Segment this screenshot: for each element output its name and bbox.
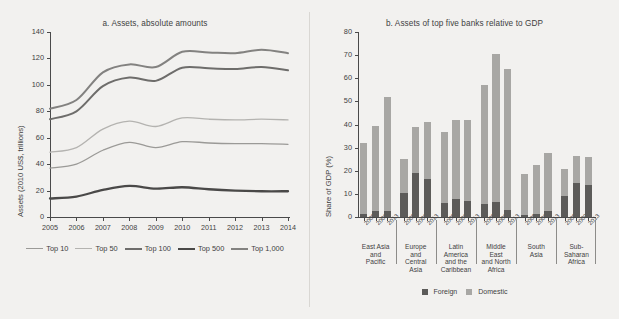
panel-b-group-label: LatinAmericaand theCaribbean [434,243,477,273]
bar-segment-domestic [504,69,511,211]
group-label-line: East Asia [354,243,397,251]
legend-item-top-50: Top 50 [75,244,117,253]
group-separator [556,220,557,264]
group-label-line: East [475,251,518,259]
panel-a-y-tick-label: 40 [20,159,44,168]
legend-label: Domestic [478,288,507,295]
bar-segment-foreign [585,185,592,217]
bar-segment-foreign [400,193,407,218]
panel-b-y-tick-label: 10 [330,189,352,198]
bar-segment-domestic [533,165,540,214]
panel-b-y-tick [355,217,358,218]
panel-b-group-label: MiddleEastand NorthAfrica [475,243,518,273]
legend-item-top-500: Top 500 [178,244,224,253]
panel-a-plot-area: 0204060801001201402005200620072008200920… [50,32,288,217]
bar-segment-domestic [464,120,471,201]
bar-segment-foreign [504,210,511,217]
bar-segment-foreign [360,214,367,217]
legend-item-top-10: Top 10 [26,244,68,253]
panel-a-y-tick-label: 0 [20,212,44,221]
bar-stack [492,54,499,217]
bar-segment-foreign [452,199,459,218]
panel-a-x-tick-label: 2009 [142,223,170,232]
panel-b-plot-area: 0102030405060708020052009201320052009201… [358,32,594,217]
panel-b-y-tick-label: 20 [330,166,352,175]
bar-segment-foreign [544,211,551,217]
panel-a-x-tick [103,218,104,221]
group-label-line: Middle [475,243,518,251]
panel-b-group-label: Sub-SaharanAfrica [555,243,598,266]
series-line-top-500 [50,186,288,199]
group-label-line: Asia [394,266,437,274]
panel-a-y-tick-label: 20 [20,186,44,195]
legend-swatch [466,289,472,295]
panel-b-y-tick [355,194,358,195]
legend-label: Foreign [434,288,458,295]
bar-stack [400,159,407,217]
bar-segment-foreign [492,202,499,217]
panel-a-x-tick [156,218,157,221]
panel-b-y-tick [355,101,358,102]
bar-stack [561,169,568,217]
group-label-line: Asia [515,251,558,259]
legend-label: Top 1,000 [251,244,283,253]
panel-b-y-tick [355,78,358,79]
legend-item-top-100: Top 100 [125,244,171,253]
group-label-line: Saharan [555,251,598,259]
bar-segment-domestic [585,157,592,185]
bar-stack [452,120,459,217]
bar-segment-domestic [492,54,499,202]
panel-a-x-tick-label: 2012 [221,223,249,232]
bar-stack [372,126,379,217]
bar-segment-domestic [372,126,379,211]
group-separator [436,220,437,264]
bar-stack [533,165,540,217]
group-separator [516,220,517,264]
bar-stack [504,69,511,217]
panel-b-y-tick-label: 0 [330,212,352,221]
panel-b-y-tick-label: 80 [330,27,352,36]
panel-b-y-tick [355,32,358,33]
panel-b-y-tick-label: 60 [330,73,352,82]
bar-stack [481,85,488,217]
bar-segment-domestic [481,85,488,203]
panel-b-y-tick-label: 40 [330,120,352,129]
bar-segment-domestic [441,132,448,203]
bar-stack [360,143,367,217]
panel-b-y-tick [355,171,358,172]
bar-segment-foreign [481,204,488,217]
group-label-line: Africa [555,258,598,266]
bar-segment-domestic [573,156,580,183]
group-label-line: South [515,243,558,251]
group-label-line: and North [475,258,518,266]
panel-a-x-tick [235,218,236,221]
panel-a-legend: Top 10Top 50Top 100Top 500Top 1,000 [0,244,310,253]
panel-a-x-tick [262,218,263,221]
group-label-line: and [394,251,437,259]
legend-label: Top 50 [95,244,117,253]
bar-segment-foreign [441,203,448,217]
group-label-line: Latin [434,243,477,251]
panel-a-y-tick-label: 100 [20,80,44,89]
panel-a-x-tick-label: 2014 [274,223,302,232]
bar-segment-foreign [573,183,580,217]
bar-segment-domestic [561,169,568,196]
legend-swatch [422,289,428,295]
legend-label: Top 100 [145,244,171,253]
legend-label: Top 500 [198,244,224,253]
bar-segment-domestic [412,127,419,173]
panel-b-y-tick [355,125,358,126]
group-label-line: Europe [394,243,437,251]
bar-segment-domestic [424,122,431,179]
bar-segment-domestic [400,159,407,193]
panel-b-y-tick [355,55,358,56]
group-label-line: and the [434,258,477,266]
panel-b-y-axis [358,32,359,218]
bar-segment-foreign [384,211,391,217]
series-line-top-1-000 [50,50,288,109]
panel-b-y-tick [355,148,358,149]
group-separator [476,220,477,264]
panel-a-y-tick-label: 80 [20,106,44,115]
legend-swatch [26,248,43,249]
bar-stack [384,97,391,217]
